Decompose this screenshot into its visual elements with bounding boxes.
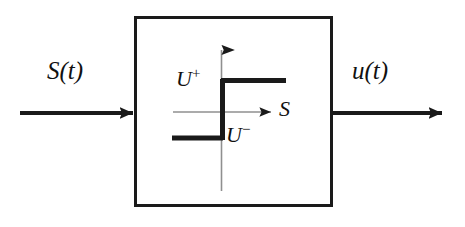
lower-level-sign: − [242,121,250,137]
s-axis-label: S [279,98,290,120]
diagram-canvas: S(t) u(t) S U+ U− [0,0,465,227]
output-signal-label: u(t) [352,58,388,83]
lower-level-label: U− [226,122,250,146]
upper-level-label: U+ [176,66,200,90]
block-diagram-graphic [0,0,465,227]
lower-level-letter: U [226,122,242,147]
upper-level-sign: + [192,65,200,81]
upper-level-letter: U [176,66,192,91]
input-signal-label: S(t) [47,58,83,83]
